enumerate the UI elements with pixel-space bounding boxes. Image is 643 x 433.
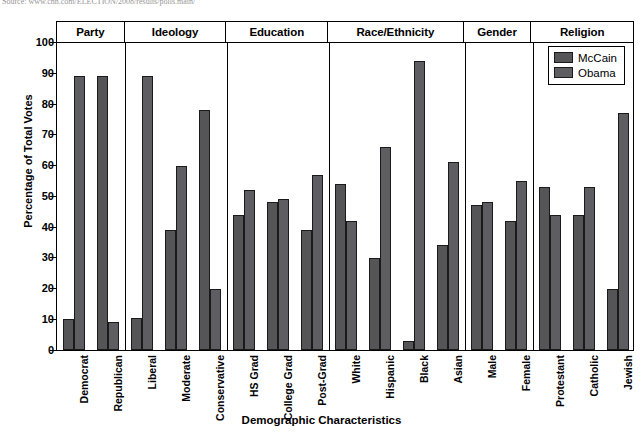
- bar-obama-post-grad: [312, 175, 323, 350]
- x-tick-label-democrat: Democrat: [78, 355, 90, 403]
- bar-mccain-female: [505, 221, 516, 350]
- plot-area: PartyIdeologyEducationRace/EthnicityGend…: [56, 21, 634, 351]
- y-tick-label-10: 10: [14, 313, 54, 325]
- legend-label-obama: Obama: [578, 67, 616, 79]
- y-tick-mark: [50, 42, 56, 43]
- group-header-band: PartyIdeologyEducationRace/EthnicityGend…: [57, 22, 633, 43]
- legend-item-mccain: McCain: [554, 50, 617, 65]
- bar-mccain-conservative: [199, 110, 210, 350]
- bar-mccain-liberal: [131, 318, 142, 350]
- group-header-party: Party: [57, 22, 125, 42]
- y-tick-label-100: 100: [14, 36, 54, 48]
- bar-mccain-protestant: [539, 187, 550, 350]
- x-tick-label-black: Black: [418, 355, 430, 383]
- x-tick-label-liberal: Liberal: [146, 355, 158, 389]
- bar-mccain-hispanic: [369, 258, 380, 350]
- y-tick-mark: [50, 257, 56, 258]
- x-tick-label-conservative: Conservative: [214, 355, 226, 421]
- bar-mccain-white: [335, 184, 346, 350]
- legend-label-mccain: McCain: [578, 52, 617, 64]
- bar-mccain-catholic: [573, 215, 584, 350]
- y-tick-mark: [50, 319, 56, 320]
- x-tick-label-hispanic: Hispanic: [384, 355, 396, 399]
- x-tick-label-catholic: Catholic: [588, 355, 600, 396]
- bar-obama-black: [414, 61, 425, 350]
- group-header-education: Education: [226, 22, 328, 42]
- x-axis-title: Demographic Characteristics: [0, 414, 643, 426]
- y-tick-mark: [50, 196, 56, 197]
- legend: McCain Obama: [548, 46, 625, 85]
- y-tick-label-20: 20: [14, 282, 54, 294]
- y-tick-label-90: 90: [14, 67, 54, 79]
- y-tick-mark: [50, 227, 56, 228]
- y-tick-mark: [50, 350, 56, 351]
- bar-obama-white: [346, 221, 357, 350]
- y-tick-mark: [50, 104, 56, 105]
- x-tick-label-republican: Republican: [112, 355, 124, 412]
- y-tick-label-30: 30: [14, 251, 54, 263]
- x-tick-label-protestant: Protestant: [554, 355, 566, 407]
- x-tick-label-moderate: Moderate: [180, 355, 192, 402]
- y-tick-mark: [50, 73, 56, 74]
- x-tick-label-asian: Asian: [452, 355, 464, 384]
- group-header-ideology: Ideology: [125, 22, 227, 42]
- x-tick-label-jewish: Jewish: [622, 355, 634, 390]
- bar-mccain-republican: [97, 76, 108, 350]
- bars-layer: [57, 43, 633, 350]
- bar-mccain-black: [403, 341, 414, 350]
- group-header-gender: Gender: [464, 22, 532, 42]
- bar-obama-liberal: [142, 76, 153, 350]
- legend-swatch-icon-obama: [554, 67, 573, 78]
- bar-obama-moderate: [176, 166, 187, 351]
- legend-swatch-icon-mccain: [554, 52, 573, 63]
- bar-obama-democrat: [74, 76, 85, 350]
- bar-obama-republican: [108, 322, 119, 350]
- bar-obama-college-grad: [278, 199, 289, 350]
- x-tick-label-post-grad: Post-Grad: [316, 355, 328, 406]
- bar-obama-catholic: [584, 187, 595, 350]
- bar-obama-asian: [448, 162, 459, 350]
- y-tick-label-70: 70: [14, 128, 54, 140]
- bar-mccain-college-grad: [267, 202, 278, 350]
- bar-obama-jewish: [618, 113, 629, 350]
- y-tick-label-80: 80: [14, 98, 54, 110]
- bar-mccain-post-grad: [301, 230, 312, 350]
- bar-obama-female: [516, 181, 527, 350]
- bar-obama-hispanic: [380, 147, 391, 350]
- bar-obama-male: [482, 202, 493, 350]
- bar-mccain-democrat: [63, 319, 74, 350]
- bar-mccain-jewish: [607, 289, 618, 351]
- bar-mccain-male: [471, 205, 482, 350]
- group-header-race-ethnicity: Race/Ethnicity: [328, 22, 464, 42]
- bar-obama-hs-grad: [244, 190, 255, 350]
- bar-chart: Percentage of Total Votes PartyIdeologyE…: [0, 0, 643, 433]
- bar-obama-conservative: [210, 289, 221, 351]
- y-tick-mark: [50, 134, 56, 135]
- y-tick-label-60: 60: [14, 159, 54, 171]
- bar-mccain-hs-grad: [233, 215, 244, 350]
- y-tick-label-50: 50: [14, 190, 54, 202]
- y-tick-label-0: 0: [14, 344, 54, 356]
- x-tick-label-college-grad: College Grad: [282, 355, 294, 420]
- x-tick-label-male: Male: [486, 355, 498, 378]
- bar-obama-protestant: [550, 215, 561, 350]
- bar-mccain-moderate: [165, 230, 176, 350]
- bar-mccain-asian: [437, 245, 448, 350]
- x-tick-label-female: Female: [520, 355, 532, 391]
- x-tick-label-hs-grad: HS Grad: [248, 355, 260, 397]
- y-tick-label-40: 40: [14, 221, 54, 233]
- legend-item-obama: Obama: [554, 65, 617, 80]
- y-tick-mark: [50, 165, 56, 166]
- group-header-religion: Religion: [531, 22, 633, 42]
- x-tick-label-white: White: [350, 355, 362, 384]
- y-tick-mark: [50, 288, 56, 289]
